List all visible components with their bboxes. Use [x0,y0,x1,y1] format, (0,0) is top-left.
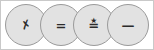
node-circle-4[interactable]: — [107,4,149,46]
dash-glyph: — [122,19,135,32]
perpendicular-glyph: ≛ [89,19,100,32]
equals-glyph: = [56,19,67,32]
cross-mark-glyph: ✗ [19,18,32,33]
figure-canvas: ✗ = ≛ — [0,0,154,50]
